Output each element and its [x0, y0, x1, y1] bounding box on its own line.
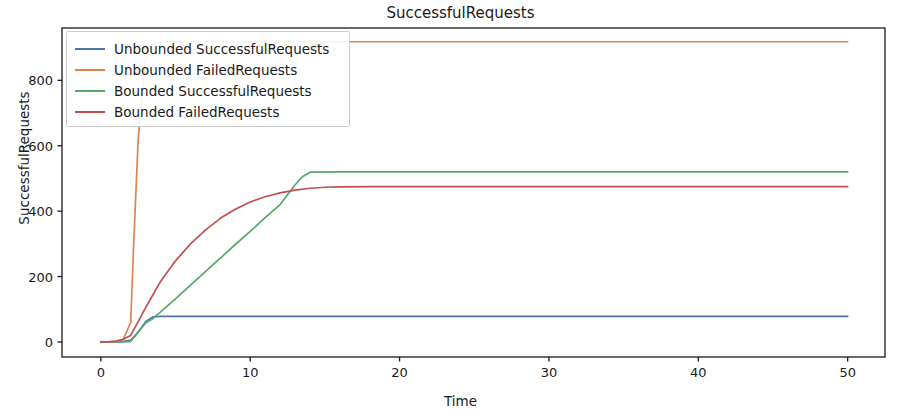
figure-canvas: SuccessfulRequests SuccessfulRequests Ti…: [0, 0, 921, 416]
legend-color-swatch: [75, 48, 105, 50]
legend-color-swatch: [75, 111, 105, 113]
legend-item: Unbounded SuccessfulRequests: [75, 38, 341, 59]
series-line-0: [101, 316, 848, 342]
legend: Unbounded SuccessfulRequestsUnbounded Fa…: [66, 31, 350, 127]
legend-item-label: Unbounded SuccessfulRequests: [114, 41, 329, 57]
legend-item-label: Unbounded FailedRequests: [114, 62, 297, 78]
legend-item: Unbounded FailedRequests: [75, 59, 341, 80]
legend-item: Bounded FailedRequests: [75, 101, 341, 122]
legend-item-label: Bounded SuccessfulRequests: [114, 83, 312, 99]
legend-item: Bounded SuccessfulRequests: [75, 80, 341, 101]
legend-color-swatch: [75, 90, 105, 92]
legend-item-label: Bounded FailedRequests: [114, 104, 279, 120]
legend-color-swatch: [75, 69, 105, 71]
